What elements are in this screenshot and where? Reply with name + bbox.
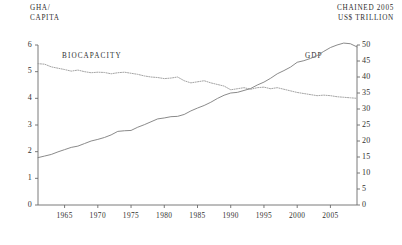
y-tick-left-6: 6	[18, 40, 32, 49]
chart-svg	[0, 0, 402, 245]
y-tick-left-5: 5	[18, 66, 32, 75]
tick-marks	[35, 45, 360, 208]
y-tick-right-5: 5	[362, 184, 380, 193]
y-tick-right-40: 40	[362, 72, 380, 81]
y-tick-left-4: 4	[18, 93, 32, 102]
y-tick-left-0: 0	[18, 200, 32, 209]
x-tick-2005: 2005	[315, 211, 345, 220]
series-line-biocapacity	[38, 64, 357, 99]
y-tick-left-1: 1	[18, 173, 32, 182]
x-tick-1990: 1990	[216, 211, 246, 220]
series-line-gdp	[38, 43, 357, 158]
x-tick-1975: 1975	[116, 211, 146, 220]
x-tick-1965: 1965	[50, 211, 80, 220]
y-tick-left-3: 3	[18, 120, 32, 129]
y-tick-right-25: 25	[362, 120, 380, 129]
x-tick-1995: 1995	[249, 211, 279, 220]
y-tick-right-0: 0	[362, 200, 380, 209]
x-tick-2000: 2000	[282, 211, 312, 220]
x-tick-1980: 1980	[149, 211, 179, 220]
x-tick-1970: 1970	[83, 211, 113, 220]
chart-container: GHA/ CAPITA CHAINED 2005 US$ TRILLION BI…	[0, 0, 402, 245]
y-tick-right-10: 10	[362, 168, 380, 177]
y-tick-left-2: 2	[18, 146, 32, 155]
y-tick-right-15: 15	[362, 152, 380, 161]
y-tick-right-45: 45	[362, 56, 380, 65]
x-tick-1985: 1985	[183, 211, 213, 220]
axis-lines	[38, 45, 357, 205]
y-tick-right-35: 35	[362, 88, 380, 97]
y-tick-right-20: 20	[362, 136, 380, 145]
y-tick-right-30: 30	[362, 104, 380, 113]
y-tick-right-50: 50	[362, 40, 380, 49]
